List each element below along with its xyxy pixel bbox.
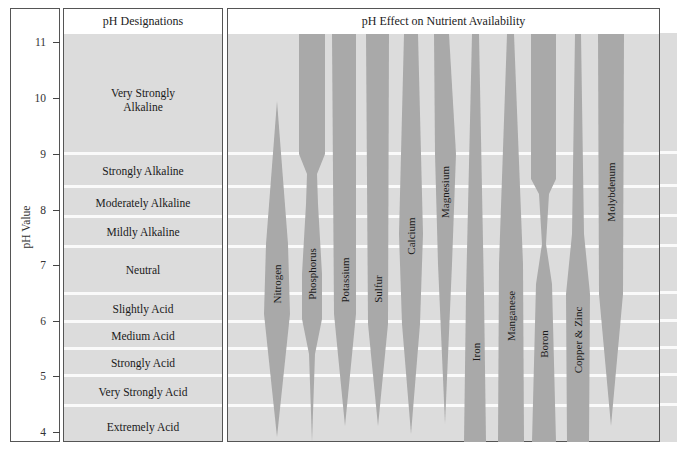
band-separator xyxy=(64,374,222,377)
label-potassium: Potassium xyxy=(339,257,351,303)
ph-axis-panel: pH Value 11 10 9 8 7 6 5 4 xyxy=(10,8,60,442)
band-very-strongly-alkaline: Very Strongly Alkaline xyxy=(64,86,222,114)
boron-shape xyxy=(531,34,556,442)
tick-9 xyxy=(53,154,60,155)
band-separator xyxy=(64,404,222,407)
label-magnesium: Magnesium xyxy=(439,166,451,218)
designations-bands: Very Strongly Alkaline Strongly Alkaline… xyxy=(64,34,222,441)
y-axis-label: pH Value xyxy=(20,182,32,272)
ph-designations-panel: pH Designations Very Strongly Alkaline S… xyxy=(63,8,223,442)
tick-4 xyxy=(53,432,60,433)
band-separator xyxy=(660,346,677,349)
manganese-shape xyxy=(498,34,524,442)
band-separator xyxy=(660,403,677,406)
label-boron: Boron xyxy=(538,330,550,358)
band-separator xyxy=(660,319,677,322)
copper-zinc-shape xyxy=(566,34,590,442)
designations-header: pH Designations xyxy=(64,9,222,35)
band-mildly-alkaline: Mildly Alkaline xyxy=(64,225,222,239)
label-copper-zinc: Copper & Zinc xyxy=(572,307,584,374)
tick-label-7: 7 xyxy=(40,259,46,271)
band-separator xyxy=(660,373,677,376)
tick-10 xyxy=(53,98,60,99)
band-separator xyxy=(660,151,677,154)
tick-label-6: 6 xyxy=(40,315,46,327)
band-separator xyxy=(64,292,222,295)
tick-label-11: 11 xyxy=(35,36,46,48)
nutrient-availability-panel: pH Effect on Nutrient Availability xyxy=(227,8,660,442)
band-separator xyxy=(64,185,222,188)
tick-6 xyxy=(53,321,60,322)
potassium-shape xyxy=(332,34,356,426)
tick-7 xyxy=(53,265,60,266)
tick-5 xyxy=(53,376,60,377)
label-manganese: Manganese xyxy=(505,291,517,341)
label-iron: Iron xyxy=(470,342,482,361)
band-slightly-acid: Slightly Acid xyxy=(64,302,222,316)
band-label-line1: Very Strongly xyxy=(64,86,222,100)
phosphorus-shape xyxy=(299,34,325,442)
iron-shape xyxy=(464,34,486,442)
band-separator xyxy=(660,244,677,247)
band-separator xyxy=(660,184,677,187)
band-label-line2: Alkaline xyxy=(64,100,222,114)
nutrient-shapes: Nitrogen Phosphorus Potassium Sulfur Cal… xyxy=(228,34,659,442)
band-separator xyxy=(660,214,677,217)
band-medium-acid: Medium Acid xyxy=(64,329,222,343)
molybdenum-shape xyxy=(598,34,624,426)
band-separator xyxy=(64,152,222,155)
tick-label-8: 8 xyxy=(40,204,46,216)
label-calcium: Calcium xyxy=(405,217,417,255)
band-separator xyxy=(660,291,677,294)
tick-11 xyxy=(53,42,60,43)
band-separator xyxy=(64,320,222,323)
sulfur-shape xyxy=(366,34,389,426)
label-molybdenum: Molybdenum xyxy=(605,162,617,222)
effect-header: pH Effect on Nutrient Availability xyxy=(228,9,659,35)
tick-label-5: 5 xyxy=(40,370,46,382)
tick-label-4: 4 xyxy=(40,426,46,438)
band-strongly-acid: Strongly Acid xyxy=(64,356,222,370)
band-strongly-alkaline: Strongly Alkaline xyxy=(64,164,222,178)
label-nitrogen: Nitrogen xyxy=(271,264,283,304)
magnesium-shape xyxy=(434,34,456,424)
band-extremely-acid: Extremely Acid xyxy=(64,420,222,434)
right-edge-strip xyxy=(660,33,677,442)
band-separator xyxy=(64,245,222,248)
label-sulfur: Sulfur xyxy=(372,275,384,303)
label-phosphorus: Phosphorus xyxy=(306,248,318,299)
band-very-strongly-acid: Very Strongly Acid xyxy=(64,385,222,399)
tick-label-10: 10 xyxy=(35,92,47,104)
band-separator xyxy=(64,347,222,350)
band-moderately-alkaline: Moderately Alkaline xyxy=(64,196,222,210)
tick-label-9: 9 xyxy=(40,148,46,160)
band-separator xyxy=(64,215,222,218)
tick-8 xyxy=(53,210,60,211)
band-neutral: Neutral xyxy=(64,263,222,277)
